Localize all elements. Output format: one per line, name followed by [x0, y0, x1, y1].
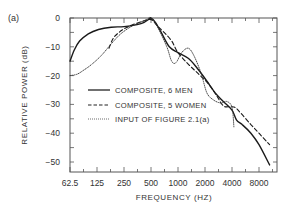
- y-tick-label: −20: [46, 71, 61, 81]
- legend-item-men: COMPOSITE, 6 MEN: [88, 86, 193, 95]
- y-tick-label: −30: [46, 99, 61, 109]
- x-tick-label: 8000: [250, 178, 269, 188]
- legend-label-men: COMPOSITE, 6 MEN: [115, 86, 193, 95]
- y-axis-title: RELATIVE POWER (dB): [20, 45, 29, 144]
- y-tick-label: 0: [55, 13, 60, 23]
- x-tick-label: 250: [117, 178, 131, 188]
- y-tick-label: −50: [46, 157, 61, 167]
- x-tick-label: 4000: [223, 178, 242, 188]
- x-tick-label: 62.5: [62, 178, 79, 188]
- x-axis-title: FREQUENCY (HZ): [136, 193, 213, 202]
- x-tick-label: 125: [90, 178, 104, 188]
- panel-label: (a): [8, 13, 19, 23]
- legend-label-women: COMPOSITE, 5 WOMEN: [115, 101, 206, 110]
- x-tick-label: 500: [144, 178, 158, 188]
- y-tick-label: −40: [46, 128, 61, 138]
- legend-item-input: INPUT OF FIGURE 2.1(a): [88, 115, 210, 124]
- y-tick-label: −10: [46, 42, 61, 52]
- frequency-response-chart: (a) RELATIVE POWER (dB) FREQUENCY (HZ) 0…: [0, 0, 291, 219]
- legend-item-women: COMPOSITE, 5 WOMEN: [88, 101, 206, 110]
- plot-frame: [70, 18, 277, 172]
- x-tick-label: 1000: [169, 178, 188, 188]
- series-line-dotted: [70, 18, 234, 128]
- legend: COMPOSITE, 6 MEN COMPOSITE, 5 WOMEN INPU…: [88, 86, 210, 124]
- series-line-dashed: [109, 19, 270, 144]
- legend-label-input: INPUT OF FIGURE 2.1(a): [115, 115, 210, 124]
- x-tick-label: 2000: [196, 178, 215, 188]
